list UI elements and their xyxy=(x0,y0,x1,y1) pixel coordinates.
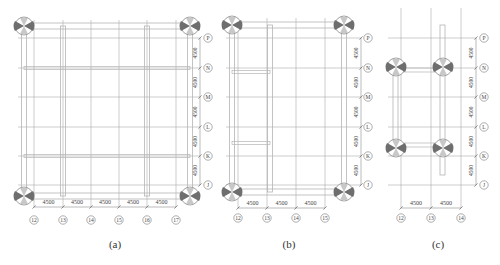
row-axis-K: K xyxy=(364,152,372,160)
row-spacing-dimension: 4500 xyxy=(192,136,198,147)
row-axis-N-label: N xyxy=(206,65,210,71)
row-axis-L: L xyxy=(204,123,212,131)
row-axis-labels: PNMLKJ45004500450045004500 xyxy=(468,34,488,189)
column-axis-14-label: 14 xyxy=(458,215,464,221)
column-axis-14: 14 xyxy=(87,216,95,224)
column-axis-12: 12 xyxy=(234,214,242,222)
column-axis-13-label: 13 xyxy=(264,215,270,221)
column-axis-15-label: 15 xyxy=(116,217,122,223)
row-spacing-dimension: 4500 xyxy=(353,106,359,117)
column-axis-12: 12 xyxy=(30,216,38,224)
column-axis-13: 13 xyxy=(59,216,67,224)
column-axis-15-label: 15 xyxy=(322,215,328,221)
row-axis-P-label: P xyxy=(206,35,209,41)
row-axis-labels: PNMLKJ45004500450045004500 xyxy=(353,34,372,189)
support-symbol-icon xyxy=(180,187,201,205)
row-axis-N: N xyxy=(364,64,372,72)
column-axis-17: 17 xyxy=(172,216,180,224)
row-axis-J: J xyxy=(480,181,488,189)
support-symbol-icon xyxy=(334,183,355,201)
column-axis-14-label: 14 xyxy=(293,215,299,221)
column-axis-labels: 12131415161745004500450045004500 xyxy=(30,199,180,224)
row-spacing-dimension: 4500 xyxy=(468,165,474,176)
row-spacing-dimension: 4500 xyxy=(468,77,474,88)
support-symbol-icon xyxy=(222,183,243,201)
row-axis-K-label: K xyxy=(206,153,210,159)
row-axis-M: M xyxy=(480,93,488,101)
column-axis-17-label: 17 xyxy=(173,217,179,223)
row-spacing-dimension: 4500 xyxy=(353,136,359,147)
support-symbol-icon xyxy=(14,187,35,205)
row-axis-L: L xyxy=(364,123,372,131)
row-spacing-dimension: 4500 xyxy=(192,47,198,58)
row-axis-N: N xyxy=(204,64,212,72)
row-axis-N-label: N xyxy=(482,65,486,71)
column-spacing-dimension: 4500 xyxy=(99,199,111,205)
column-axis-14: 14 xyxy=(292,214,300,222)
panel-a-caption: (a) xyxy=(109,238,121,250)
column-axis-13: 13 xyxy=(263,214,271,222)
column-axis-15: 15 xyxy=(115,216,123,224)
column-axis-12-label: 12 xyxy=(235,215,241,221)
row-spacing-dimension: 4500 xyxy=(353,165,359,176)
column-axis-12-label: 12 xyxy=(398,215,404,221)
structural-members xyxy=(21,23,193,199)
column-axis-16: 16 xyxy=(143,216,151,224)
support-symbol-icon xyxy=(433,58,454,76)
support-symbol-icon xyxy=(386,58,407,76)
row-axis-P: P xyxy=(204,34,212,42)
structural-plan-figure: PNMLKJ4500450045004500450012131415161745… xyxy=(0,0,500,265)
row-axis-L: L xyxy=(480,123,488,131)
column-axis-13: 13 xyxy=(427,214,435,222)
row-axis-K: K xyxy=(204,152,212,160)
column-spacing-dimension: 4500 xyxy=(440,200,452,206)
row-axis-labels: PNMLKJ45004500450045004500 xyxy=(192,34,212,189)
row-axis-N-label: N xyxy=(366,65,370,71)
column-spacing-dimension: 4500 xyxy=(247,200,259,206)
axis-grid xyxy=(226,18,361,208)
column-axis-15: 15 xyxy=(321,214,329,222)
panel-a-plan: PNMLKJ4500450045004500450012131415161745… xyxy=(14,17,213,224)
column-axis-13-label: 13 xyxy=(60,217,66,223)
panel-b-plan: PNMLKJ4500450045004500450012131415450045… xyxy=(222,16,373,222)
structural-members xyxy=(229,22,347,195)
row-axis-K-label: K xyxy=(366,153,370,159)
row-axis-P: P xyxy=(480,34,488,42)
row-axis-K-label: K xyxy=(482,153,486,159)
row-spacing-dimension: 4500 xyxy=(192,77,198,88)
panel-c-caption: (c) xyxy=(432,238,444,250)
column-spacing-dimension: 4500 xyxy=(43,199,55,205)
row-axis-P-label: P xyxy=(482,35,485,41)
panel-b-caption: (b) xyxy=(283,238,296,250)
support-symbol-icon xyxy=(222,16,243,34)
support-symbol-icon xyxy=(334,16,355,34)
column-axis-labels: 12131415450045004500 xyxy=(234,200,329,222)
row-spacing-dimension: 4500 xyxy=(353,77,359,88)
axis-grid xyxy=(18,20,200,207)
row-axis-M-label: M xyxy=(482,94,487,100)
column-spacing-dimension: 4500 xyxy=(127,199,139,205)
row-spacing-dimension: 4500 xyxy=(468,136,474,147)
row-spacing-dimension: 4500 xyxy=(192,106,198,117)
row-spacing-dimension: 4500 xyxy=(468,47,474,58)
column-axis-12-label: 12 xyxy=(31,217,37,223)
row-axis-N: N xyxy=(480,64,488,72)
row-axis-P: P xyxy=(364,34,372,42)
row-axis-M-label: M xyxy=(206,94,211,100)
column-axis-16-label: 16 xyxy=(144,217,150,223)
row-axis-P-label: P xyxy=(366,35,369,41)
support-symbol-icon xyxy=(180,17,201,35)
support-symbol-icon xyxy=(14,17,35,35)
row-axis-M-label: M xyxy=(366,94,371,100)
row-axis-J: J xyxy=(364,181,372,189)
column-spacing-dimension: 4500 xyxy=(276,200,288,206)
row-axis-M: M xyxy=(204,93,212,101)
row-spacing-dimension: 4500 xyxy=(353,47,359,58)
row-axis-J: J xyxy=(204,181,212,189)
row-axis-K: K xyxy=(480,152,488,160)
column-axis-14-label: 14 xyxy=(88,217,94,223)
column-axis-12: 12 xyxy=(397,214,405,222)
column-spacing-dimension: 4500 xyxy=(156,199,168,205)
column-spacing-dimension: 4500 xyxy=(71,199,83,205)
row-spacing-dimension: 4500 xyxy=(192,165,198,176)
